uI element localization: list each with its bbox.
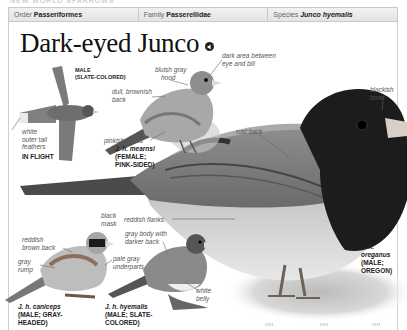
- leader-lines: [0, 0, 407, 330]
- bottom-tick-3: ıııı: [372, 321, 381, 327]
- bottom-tick-1: ıııı: [265, 321, 274, 327]
- bottom-tick-2: ıııı: [320, 321, 329, 327]
